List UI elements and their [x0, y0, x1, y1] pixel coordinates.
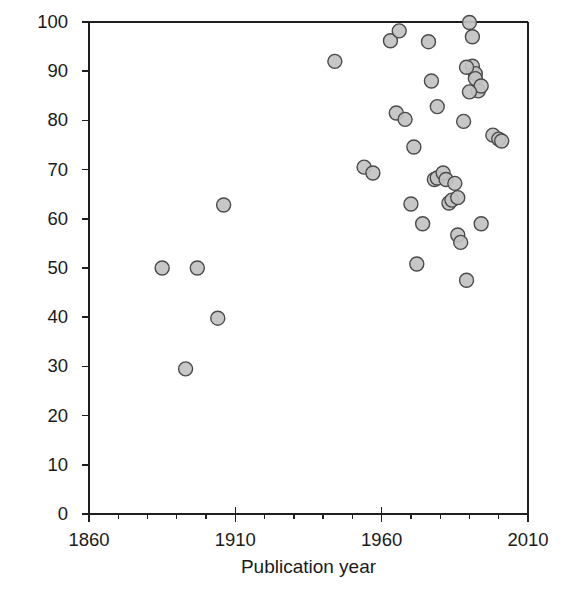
x-tick-label: 2010: [507, 531, 548, 550]
x-tick-label: 1910: [215, 531, 256, 550]
scatter-plot-figure: Incidence (%) Publication year 010203040…: [0, 0, 563, 602]
x-tick-label: 1960: [361, 531, 402, 550]
x-tick-label: 1860: [68, 531, 109, 550]
x-axis-tick-labels: 1860191019602010: [0, 0, 563, 602]
